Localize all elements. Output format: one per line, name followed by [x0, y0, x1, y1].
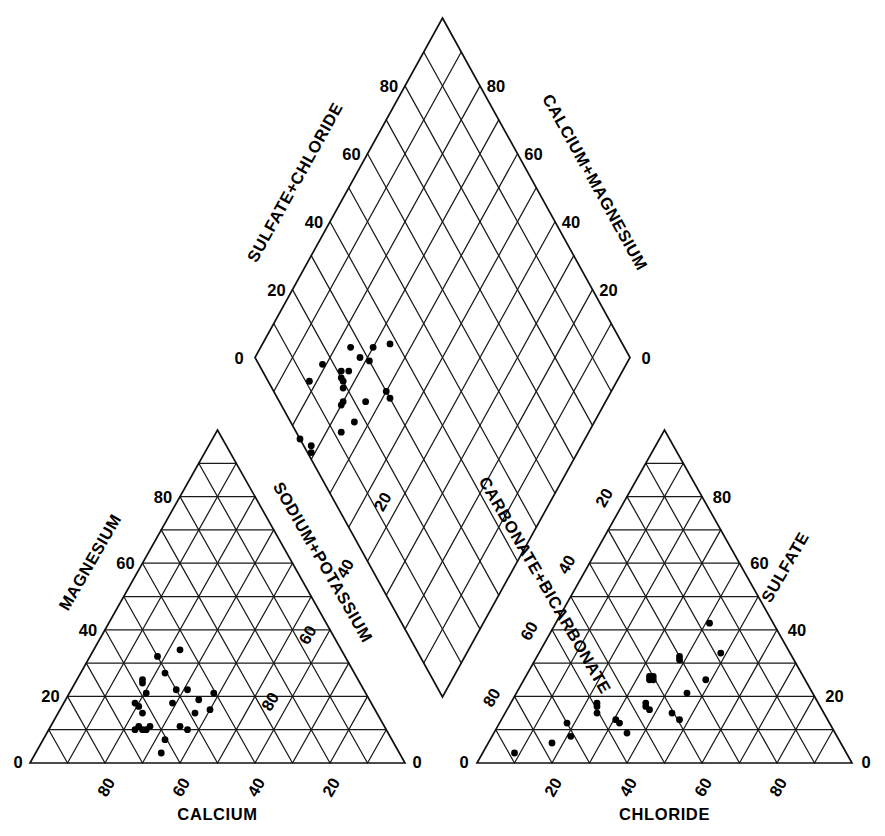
diamond-data-point [366, 357, 373, 364]
diamond-data-point [338, 429, 345, 436]
cation-data-point [147, 723, 154, 730]
diamond-left-tick-80: 80 [380, 77, 398, 95]
cation-left-tick-60: 60 [116, 554, 134, 572]
anion-left-tick-20: 20 [591, 485, 616, 510]
anion-data-point [717, 650, 724, 657]
cation-data-point [177, 646, 184, 653]
anion-data-point [624, 730, 631, 737]
diamond-right-tick-60: 60 [524, 145, 542, 163]
diamond-right-tick-0: 0 [641, 349, 650, 367]
anion-left-tick-80: 80 [479, 685, 504, 710]
cation-data-point [162, 736, 169, 743]
diamond-right-axis-title: CALCIUM+MAGNESIUM [539, 91, 651, 273]
piper-diagram-canvas: 0806040200204060802040608002040608002040… [0, 0, 885, 836]
cation-data-point [207, 706, 214, 713]
diamond-right-tick-20: 20 [599, 281, 617, 299]
cation-data-point [184, 686, 191, 693]
cation-data-point [195, 696, 202, 703]
cation-data-point [132, 726, 139, 733]
anion-bottom-tick-2: 40 [615, 775, 640, 800]
cation-bottom-axis-title: CALCIUM [177, 805, 257, 823]
cation-data-point [139, 680, 146, 687]
cation-data-point [158, 750, 165, 757]
cation-bottom-tick-2: 60 [168, 775, 193, 800]
anion-data-point [616, 720, 623, 727]
diamond-right-tick-40: 40 [562, 213, 580, 231]
cation-data-point [210, 690, 217, 697]
anion-right-tick-60: 60 [750, 554, 768, 572]
anion-data-points [511, 620, 724, 757]
anion-bottom-tick-1: 20 [540, 775, 565, 800]
anion-right-tick-80: 80 [713, 488, 731, 506]
anion-bottom-tick-4: 80 [765, 775, 790, 800]
diamond-left-tick-40: 40 [305, 213, 323, 231]
anion-data-point [511, 750, 518, 757]
cation-data-point [162, 670, 169, 677]
anion-bottom-tick-3: 60 [690, 775, 715, 800]
anion-data-point [564, 720, 571, 727]
cation-left-axis-title: MAGNESIUM [55, 511, 125, 614]
cation-data-point [192, 710, 199, 717]
anion-data-point [676, 656, 683, 663]
cation-data-point [154, 653, 161, 660]
diamond-data-point [308, 449, 315, 456]
anion-left-tick-40: 40 [554, 552, 579, 577]
anion-left-tick-60: 60 [516, 618, 541, 643]
cation-data-point [169, 700, 176, 707]
cation-bottom-tick-1: 80 [93, 775, 118, 800]
diamond-right-tick-80: 80 [487, 77, 505, 95]
cation-left-tick-80: 80 [154, 488, 172, 506]
diamond-data-point [387, 341, 394, 348]
anion-data-point [646, 706, 653, 713]
diamond-data-point [319, 361, 326, 368]
anion-triangle-grid [477, 430, 852, 763]
anion-data-point [684, 690, 691, 697]
anion-data-point [594, 703, 601, 710]
cation-right-axis-title: SODIUM+POTASSIUM [270, 479, 377, 646]
cation-right-tick-20: 20 [370, 489, 395, 514]
anion-data-point [650, 676, 657, 683]
cation-bottom-tick-0: 0 [13, 753, 22, 771]
diamond-left-tick-60: 60 [342, 145, 360, 163]
anion-bottom-tick-0: 0 [459, 753, 468, 771]
cation-bottom-tick-4: 20 [318, 775, 343, 800]
diamond-data-point [340, 385, 347, 392]
diamond-data-point [347, 344, 354, 351]
cation-left-tick-40: 40 [79, 621, 97, 639]
anion-data-point [594, 710, 601, 717]
diamond-data-point [362, 398, 369, 405]
diamond-left-axis-title: SULFATE+CHLORIDE [243, 99, 346, 265]
anion-bottom-tick-5: 0 [861, 753, 870, 771]
anion-data-point [676, 716, 683, 723]
cation-data-point [139, 710, 146, 717]
cation-data-point [173, 686, 180, 693]
anion-data-point [669, 710, 676, 717]
diamond-data-point [357, 354, 364, 361]
diamond-data-point [306, 378, 313, 385]
cation-bottom-tick-3: 40 [243, 775, 268, 800]
piper-diagram: 0806040200204060802040608002040608002040… [0, 0, 885, 836]
diamond-data-point [387, 395, 394, 402]
anion-right-tick-20: 20 [825, 687, 843, 705]
anion-right-tick-40: 40 [788, 621, 806, 639]
diamond-data-point [370, 344, 377, 351]
diamond-data-point [297, 436, 304, 443]
diamond-data-point [383, 388, 390, 395]
axis-titles: MAGNESIUMSODIUM+POTASSIUMCALCIUMCARBONAT… [55, 91, 812, 823]
cation-left-tick-20: 20 [41, 687, 59, 705]
diamond-data-point [338, 402, 345, 409]
diamond-data-point [308, 442, 315, 449]
cation-data-point [135, 703, 142, 710]
cation-data-point [184, 726, 191, 733]
cation-right-tick-80: 80 [257, 689, 282, 714]
anion-data-point [702, 676, 709, 683]
cation-data-point [177, 723, 184, 730]
cation-right-tick-60: 60 [295, 622, 320, 647]
diamond-data-point [340, 378, 347, 385]
anion-data-point [549, 740, 556, 747]
diamond-left-tick-0: 0 [234, 349, 243, 367]
cation-data-point [143, 690, 150, 697]
diamond-left-tick-20: 20 [267, 281, 285, 299]
cation-bottom-tick-5: 0 [412, 753, 421, 771]
diamond-data-point [351, 419, 358, 426]
